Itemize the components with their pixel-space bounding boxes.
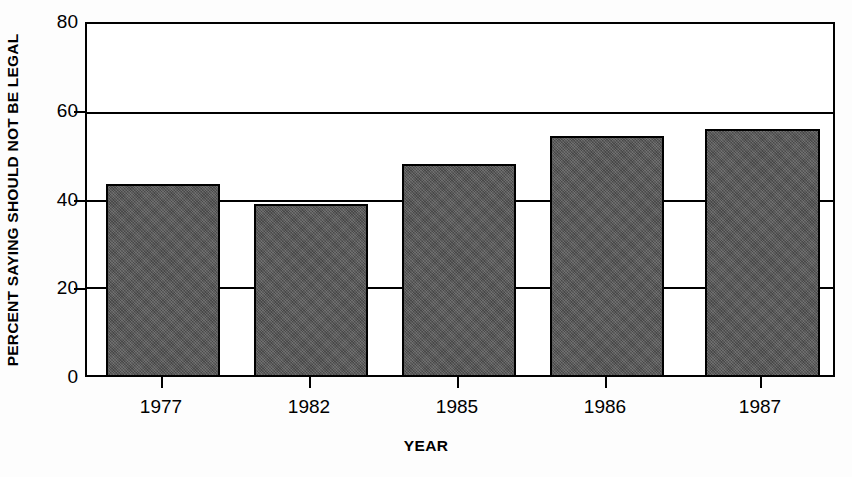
y-tick-label-20: 20 xyxy=(34,278,78,297)
y-axis-tick-labels: 0 20 40 60 80 xyxy=(32,0,78,477)
y-tick-mark-20 xyxy=(74,288,85,290)
bar-chart-figure: PERCENT SAYING SHOULD NOT BE LEGAL 0 20 … xyxy=(0,0,852,477)
x-tick-mark-1977 xyxy=(161,377,163,388)
x-tick-mark-1985 xyxy=(457,377,459,388)
x-tick-label-1982: 1982 xyxy=(259,396,359,418)
bar-1987[interactable] xyxy=(705,129,820,375)
x-tick-label-1987: 1987 xyxy=(710,396,810,418)
y-tick-label-80: 80 xyxy=(34,12,78,31)
x-tick-mark-1986 xyxy=(605,377,607,388)
plot-area xyxy=(85,22,835,377)
x-tick-label-1985: 1985 xyxy=(407,396,507,418)
y-tick-label-40: 40 xyxy=(34,190,78,209)
x-tick-mark-1982 xyxy=(309,377,311,388)
gridline-60 xyxy=(87,112,833,114)
x-tick-label-1977: 1977 xyxy=(111,396,211,418)
y-tick-mark-60 xyxy=(74,111,85,113)
y-axis-title: PERCENT SAYING SHOULD NOT BE LEGAL xyxy=(0,0,26,400)
y-tick-label-60: 60 xyxy=(34,101,78,120)
bar-1982[interactable] xyxy=(254,204,368,375)
bar-1977[interactable] xyxy=(106,184,220,375)
x-axis-title: YEAR xyxy=(0,437,852,455)
bar-1986[interactable] xyxy=(550,136,664,375)
bar-1985[interactable] xyxy=(402,164,516,375)
y-tick-label-0: 0 xyxy=(34,367,78,386)
x-tick-mark-1987 xyxy=(760,377,762,388)
y-tick-mark-40 xyxy=(74,200,85,202)
x-tick-label-1986: 1986 xyxy=(555,396,655,418)
